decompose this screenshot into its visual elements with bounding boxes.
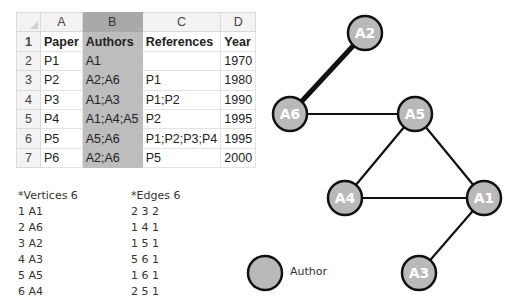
node-label: A4 [335,190,356,206]
node-a1[interactable]: A1 [467,181,501,215]
node-label: A5 [405,106,426,122]
node-a3[interactable]: A3 [402,256,436,290]
edge-layer [290,33,484,273]
node-a4[interactable]: A4 [328,181,362,215]
legend-label: Author [290,265,327,278]
node-label: A6 [280,106,301,122]
node-label: A1 [474,190,495,206]
legend-node-icon [248,256,282,290]
coauthor-network-graph: A2A6A5A4A1A3 [0,0,515,306]
node-label: A3 [409,265,430,281]
node-a5[interactable]: A5 [398,97,432,131]
node-a2[interactable]: A2 [348,16,382,50]
node-layer: A2A6A5A4A1A3 [273,16,501,290]
node-label: A2 [355,25,376,41]
node-a6[interactable]: A6 [273,97,307,131]
